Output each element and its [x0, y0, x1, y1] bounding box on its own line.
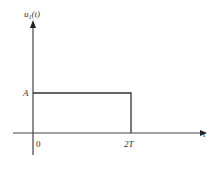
origin-label: 0: [36, 139, 41, 149]
pulse-waveform: [33, 93, 131, 133]
end-label: 2T: [124, 139, 135, 149]
x-axis-label: t: [203, 129, 206, 139]
amplitude-label: A: [22, 88, 29, 98]
y-axis-arrow-icon: [30, 20, 36, 28]
y-axis-label: u1(t): [24, 9, 40, 20]
pulse-diagram: u1(t) A 0 2T t: [0, 0, 214, 169]
